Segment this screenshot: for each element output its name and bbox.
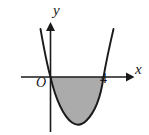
y-axis-arrowhead bbox=[46, 22, 55, 31]
x-intercept-label-4: 4 bbox=[100, 72, 107, 86]
x-axis-label: x bbox=[135, 62, 142, 77]
origin-label: O bbox=[36, 76, 46, 90]
coordinate-plane-svg bbox=[0, 0, 149, 135]
x-axis-arrowhead bbox=[126, 73, 135, 82]
y-axis-label: y bbox=[53, 3, 60, 18]
parabola-shaded-area-figure: y x O 4 bbox=[0, 0, 149, 135]
